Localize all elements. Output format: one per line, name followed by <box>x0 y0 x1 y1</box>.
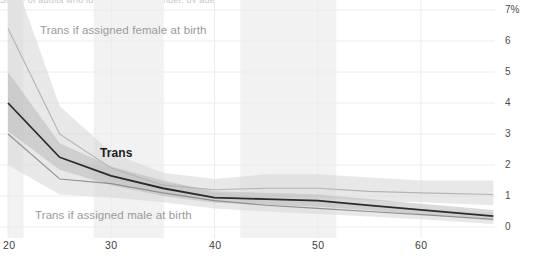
y-tick-label: 3 <box>505 129 537 139</box>
series-label-amab: Trans if assigned male at birth <box>35 209 192 221</box>
chart-container: Share of adults who identify as transgen… <box>0 0 538 258</box>
series-label-trans: Trans <box>100 146 133 160</box>
y-tick-label: 2 <box>505 160 537 170</box>
x-tick-label: 50 <box>312 240 324 251</box>
series-label-afab: Trans if assigned female at birth <box>40 24 207 36</box>
y-tick-label: 1 <box>505 191 537 201</box>
y-tick-label: 4 <box>505 98 537 108</box>
x-tick-label: 60 <box>415 240 427 251</box>
y-tick-label: 5 <box>505 67 537 77</box>
y-tick-label: 7% <box>505 5 537 15</box>
y-tick-label: 0 <box>505 222 537 232</box>
x-tick-label: 40 <box>209 240 221 251</box>
x-tick-label: 20 <box>3 240 15 251</box>
x-tick-label: 30 <box>105 240 117 251</box>
y-tick-label: 6 <box>505 36 537 46</box>
